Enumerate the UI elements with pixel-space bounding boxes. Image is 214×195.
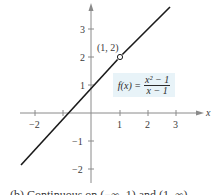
x-tick-label: 1: [117, 119, 122, 130]
y-tick-label: 3: [80, 24, 85, 35]
x-axis-label: x: [205, 107, 211, 118]
open-circle-point: [117, 54, 122, 59]
y-tick-label: −1: [72, 136, 83, 147]
function-line: [122, 7, 170, 55]
x-tick-label: −2: [29, 119, 40, 130]
y-tick-label: 2: [80, 52, 85, 63]
x-tick-label: 3: [173, 119, 178, 130]
point-label: (1, 2): [97, 42, 119, 54]
formula-fraction: x² − 1 x − 1: [144, 75, 170, 96]
plot-area: x −2 1 2 3 3 2 1 −1 −2: [0, 0, 214, 195]
formula-lhs: f(x) =: [118, 80, 141, 91]
x-axis-arrow-icon: [196, 111, 204, 116]
formula-denominator: x − 1: [145, 86, 168, 96]
formula-numerator: x² − 1: [144, 75, 170, 86]
y-axis-arrow-icon: [89, 3, 94, 11]
y-tick-label: 1: [80, 80, 85, 91]
x-tick-label: 2: [145, 119, 150, 130]
figure-caption: (b) Continuous on (−∞, 1) and (1, ∞): [10, 188, 214, 195]
formula-label: f(x) = x² − 1 x − 1: [113, 73, 175, 97]
y-tick-label: −2: [72, 164, 83, 175]
function-graph: x −2 1 2 3 3 2 1 −1 −2: [0, 0, 214, 195]
